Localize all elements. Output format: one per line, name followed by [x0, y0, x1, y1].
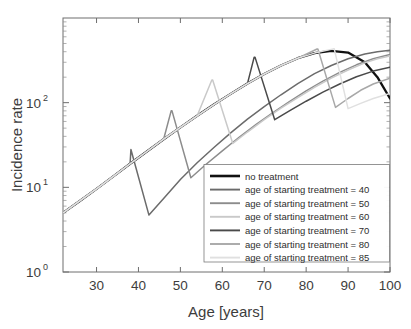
legend-label-2: age of starting treatment = 50 [245, 198, 369, 209]
x-tick-label-100: 100 [379, 278, 402, 293]
incidence-rate-chart: 30405060708090100 100101102 Age [years] … [0, 0, 411, 329]
legend-label-3: age of starting treatment = 60 [245, 211, 369, 222]
y-tick-mantissa: 10 [26, 96, 41, 111]
y-tick-mantissa: 10 [26, 265, 41, 280]
x-tick-label-30: 30 [89, 278, 104, 293]
x-tick-label-70: 70 [257, 278, 272, 293]
legend-label-4: age of starting treatment = 70 [245, 225, 369, 236]
legend-label-1: age of starting treatment = 40 [245, 184, 369, 195]
y-tick-exponent: 1 [43, 177, 48, 187]
legend-label-5: age of starting treatment = 80 [245, 239, 369, 250]
figure-container: 30405060708090100 100101102 Age [years] … [0, 0, 411, 329]
y-axis-title: Incidence rate [8, 98, 25, 192]
x-axis-title: Age [years] [188, 303, 264, 320]
x-tick-label-60: 60 [215, 278, 230, 293]
legend-label-6: age of starting treatment = 85 [245, 252, 369, 263]
y-tick-exponent: 0 [43, 262, 48, 272]
x-tick-label-80: 80 [299, 278, 314, 293]
legend-label-0: no treatment [245, 171, 299, 182]
y-tick-exponent: 2 [43, 93, 48, 103]
x-tick-label-50: 50 [173, 278, 188, 293]
x-tick-label-90: 90 [341, 278, 356, 293]
y-tick-mantissa: 10 [26, 180, 41, 195]
chart-legend[interactable]: no treatmentage of starting treatment = … [204, 165, 390, 264]
x-tick-label-40: 40 [131, 278, 146, 293]
